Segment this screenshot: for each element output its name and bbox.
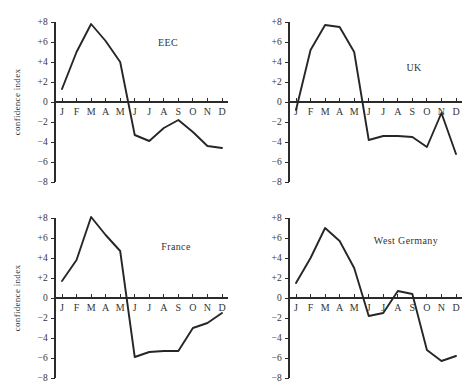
x-tick-label-west-germany-november: N (438, 302, 445, 313)
x-tick-label-eec-november: N (204, 106, 211, 117)
y-tick-label-west-germany--8: −8 (271, 373, 282, 383)
panel-title-eec: EEC (158, 37, 178, 48)
y-tick-label-west-germany--6: −6 (271, 353, 282, 363)
y-tick-label-uk-2: +2 (271, 77, 282, 87)
x-tick-label-france-april: A (102, 302, 110, 313)
x-tick-label-west-germany-february: F (308, 302, 314, 313)
x-tick-label-west-germany-december: D (452, 302, 459, 313)
panel-france: +8+6+4+20−2−4−6−8JFMAMJJASONDFranceconfi… (0, 196, 233, 392)
x-tick-label-uk-april: A (336, 106, 344, 117)
x-tick-label-uk-march: M (321, 106, 330, 117)
x-tick-label-uk-june: J (367, 106, 371, 117)
y-tick-label-france-6: +6 (37, 233, 48, 243)
x-tick-label-uk-december: D (452, 106, 459, 117)
y-tick-label-eec--2: −2 (37, 117, 48, 127)
panel-title-uk: UK (406, 62, 422, 73)
x-tick-label-west-germany-january: J (294, 302, 298, 313)
y-tick-label-west-germany-0: 0 (277, 293, 282, 303)
x-tick-label-uk-august: A (394, 106, 402, 117)
y-tick-label-france-8: +8 (37, 213, 48, 223)
data-line-france (62, 217, 222, 357)
y-tick-label-uk--6: −6 (271, 157, 282, 167)
x-tick-label-west-germany-april: A (336, 302, 344, 313)
x-tick-label-eec-december: D (218, 106, 225, 117)
x-tick-label-eec-september: S (176, 106, 182, 117)
x-tick-label-west-germany-october: O (423, 302, 430, 313)
y-tick-label-uk-6: +6 (271, 37, 282, 47)
x-tick-label-france-december: D (218, 302, 225, 313)
y-tick-label-france--8: −8 (37, 373, 48, 383)
y-tick-label-uk-4: +4 (271, 57, 282, 67)
y-tick-label-france--2: −2 (37, 313, 48, 323)
x-tick-label-uk-february: F (308, 106, 314, 117)
x-tick-label-france-october: O (189, 302, 196, 313)
plot-area-eec: +8+6+4+20−2−4−6−8JFMAMJJASONDEECconfiden… (0, 0, 233, 196)
y-tick-label-west-germany-6: +6 (271, 233, 282, 243)
x-tick-label-eec-march: M (87, 106, 96, 117)
y-tick-label-eec--4: −4 (37, 137, 48, 147)
y-tick-label-france-0: 0 (43, 293, 48, 303)
x-tick-label-uk-july: J (381, 106, 385, 117)
x-tick-label-eec-january: J (60, 106, 64, 117)
data-line-uk (296, 25, 456, 154)
y-tick-label-uk-8: +8 (271, 17, 282, 27)
x-tick-label-france-september: S (176, 302, 182, 313)
x-tick-label-uk-may: M (350, 106, 359, 117)
x-tick-label-france-february: F (74, 302, 80, 313)
y-tick-label-west-germany-2: +2 (271, 273, 282, 283)
x-tick-label-france-july: J (147, 302, 151, 313)
x-tick-label-eec-july: J (147, 106, 151, 117)
y-tick-label-west-germany-4: +4 (271, 253, 282, 263)
panel-uk: +8+6+4+20−2−4−6−8JFMAMJJASONDUK (234, 0, 467, 196)
plot-area-france: +8+6+4+20−2−4−6−8JFMAMJJASONDFranceconfi… (0, 196, 233, 392)
y-tick-label-uk-0: 0 (277, 97, 282, 107)
y-tick-label-eec-8: +8 (37, 17, 48, 27)
x-tick-label-uk-october: O (423, 106, 430, 117)
panel-title-west-germany: West Germany (374, 235, 438, 246)
x-tick-label-france-august: A (160, 302, 168, 313)
x-tick-label-eec-october: O (189, 106, 196, 117)
y-axis-title-eec: confidence index (12, 69, 22, 136)
x-tick-label-west-germany-may: M (350, 302, 359, 313)
x-tick-label-uk-september: S (410, 106, 416, 117)
y-axis-title-france: confidence index (12, 265, 22, 332)
y-tick-label-france--6: −6 (37, 353, 48, 363)
y-tick-label-west-germany-8: +8 (271, 213, 282, 223)
plot-area-west-germany: +8+6+4+20−2−4−6−8JFMAMJJASONDWest German… (234, 196, 467, 392)
x-tick-label-france-june: J (133, 302, 137, 313)
y-tick-label-eec--8: −8 (37, 177, 48, 187)
data-line-eec (62, 24, 222, 148)
confidence-index-multi-panel-chart: +8+6+4+20−2−4−6−8JFMAMJJASONDEECconfiden… (0, 0, 467, 392)
plot-area-uk: +8+6+4+20−2−4−6−8JFMAMJJASONDUK (234, 0, 467, 196)
x-tick-label-france-november: N (204, 302, 211, 313)
x-tick-label-france-january: J (60, 302, 64, 313)
data-line-west-germany (296, 228, 456, 361)
y-tick-label-uk--4: −4 (271, 137, 282, 147)
x-tick-label-eec-february: F (74, 106, 80, 117)
x-tick-label-west-germany-march: M (321, 302, 330, 313)
y-tick-label-west-germany--2: −2 (271, 313, 282, 323)
panel-title-france: France (161, 241, 191, 252)
x-tick-label-eec-june: J (133, 106, 137, 117)
x-tick-label-france-may: M (116, 302, 125, 313)
x-tick-label-west-germany-august: A (394, 302, 402, 313)
y-tick-label-eec-2: +2 (37, 77, 48, 87)
panel-west-germany: +8+6+4+20−2−4−6−8JFMAMJJASONDWest German… (234, 196, 467, 392)
x-tick-label-eec-may: M (116, 106, 125, 117)
y-tick-label-uk--8: −8 (271, 177, 282, 187)
y-tick-label-eec-4: +4 (37, 57, 48, 67)
y-tick-label-eec--6: −6 (37, 157, 48, 167)
y-tick-label-west-germany--4: −4 (271, 333, 282, 343)
y-tick-label-uk--2: −2 (271, 117, 282, 127)
y-tick-label-france-4: +4 (37, 253, 48, 263)
x-tick-label-france-march: M (87, 302, 96, 313)
x-tick-label-eec-august: A (160, 106, 168, 117)
y-tick-label-eec-0: 0 (43, 97, 48, 107)
panel-eec: +8+6+4+20−2−4−6−8JFMAMJJASONDEECconfiden… (0, 0, 233, 196)
y-tick-label-france-2: +2 (37, 273, 48, 283)
y-tick-label-france--4: −4 (37, 333, 48, 343)
y-tick-label-eec-6: +6 (37, 37, 48, 47)
x-tick-label-eec-april: A (102, 106, 110, 117)
